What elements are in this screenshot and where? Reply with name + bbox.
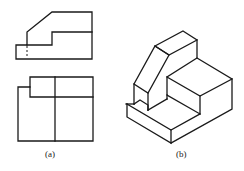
step-front-face — [167, 77, 200, 114]
slanted-face — [134, 46, 169, 93]
top-view-inner-rect — [30, 87, 93, 97]
right-side — [171, 79, 232, 143]
label-a: (a) — [45, 149, 55, 159]
top-view — [18, 77, 93, 141]
figure-canvas: (a) (b) — [0, 0, 244, 171]
isometric-view — [126, 31, 232, 143]
front-view-step-lines — [27, 32, 92, 45]
front-view — [16, 12, 92, 59]
top-face — [155, 31, 197, 55]
floor-back-edge — [148, 99, 167, 110]
label-b: (b) — [176, 149, 187, 159]
step-top-face — [167, 58, 232, 96]
notch — [134, 100, 148, 110]
